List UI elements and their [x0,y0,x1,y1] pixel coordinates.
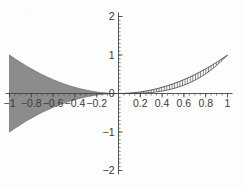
chart-plot-area: −1−0.8−0.6−0.4−0.20.20.40.60.81 −2−1012 [0,0,243,188]
right-hatched-region-path [119,55,228,94]
function-plot-svg: −1−0.8−0.6−0.4−0.20.20.40.60.81 −2−1012 [0,0,243,188]
y-tick-label: −2 [103,164,115,176]
x-tick-label: 0.4 [155,97,170,109]
x-tick-label: −0.2 [86,97,107,109]
x-tick-label: 0.8 [198,97,213,109]
y-tick-label: 1 [109,49,115,61]
x-tick-label: 0.6 [177,97,192,109]
x-tick-label: −0.4 [65,97,86,109]
x-tick-label: −0.8 [21,97,42,109]
x-tick-label: 1 [225,97,231,109]
y-tick-label: 2 [109,10,115,22]
x-tick-label: −0.6 [43,97,64,109]
axes-group [6,13,233,175]
y-tick-label: 0 [109,87,115,99]
x-tick-label: 0.2 [133,97,148,109]
x-tick-label: −1 [4,97,16,109]
y-tick-label: −1 [103,126,115,138]
x-axis-tick-labels: −1−0.8−0.6−0.4−0.20.20.40.60.81 [4,97,231,109]
right-hatched-region-group [119,55,228,94]
